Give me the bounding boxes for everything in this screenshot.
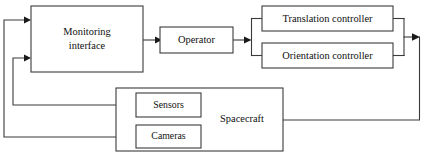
- monitoring-interface-label-line1: Monitoring: [63, 26, 110, 37]
- orientation-controller-label: Orientation controller: [282, 50, 373, 61]
- diagram-svg: Monitoring interface Operator Translatio…: [0, 0, 427, 155]
- monitoring-interface-label-line2: interface: [69, 40, 106, 51]
- block-sensors[interactable]: Sensors: [136, 93, 201, 117]
- block-monitoring-interface[interactable]: Monitoring interface: [31, 6, 143, 72]
- connector-operator-to-controllers: [233, 36, 252, 43]
- sensors-label: Sensors: [153, 99, 184, 110]
- spacecraft-label: Spacecraft: [220, 113, 264, 124]
- block-diagram-canvas: Monitoring interface Operator Translatio…: [0, 0, 427, 155]
- block-cameras[interactable]: Cameras: [136, 125, 201, 148]
- connector-controller-split-bus: [252, 19, 263, 56]
- translation-controller-label: Translation controller: [283, 13, 373, 24]
- operator-label: Operator: [178, 34, 215, 45]
- connector-controller-merge-bus: [393, 19, 404, 56]
- block-translation-controller[interactable]: Translation controller: [262, 6, 393, 31]
- connector-merge-to-command-out: [404, 33, 420, 41]
- cameras-label: Cameras: [151, 130, 185, 141]
- block-operator[interactable]: Operator: [160, 27, 233, 53]
- connector-monitoring-to-operator: [143, 36, 162, 43]
- block-orientation-controller[interactable]: Orientation controller: [262, 43, 393, 68]
